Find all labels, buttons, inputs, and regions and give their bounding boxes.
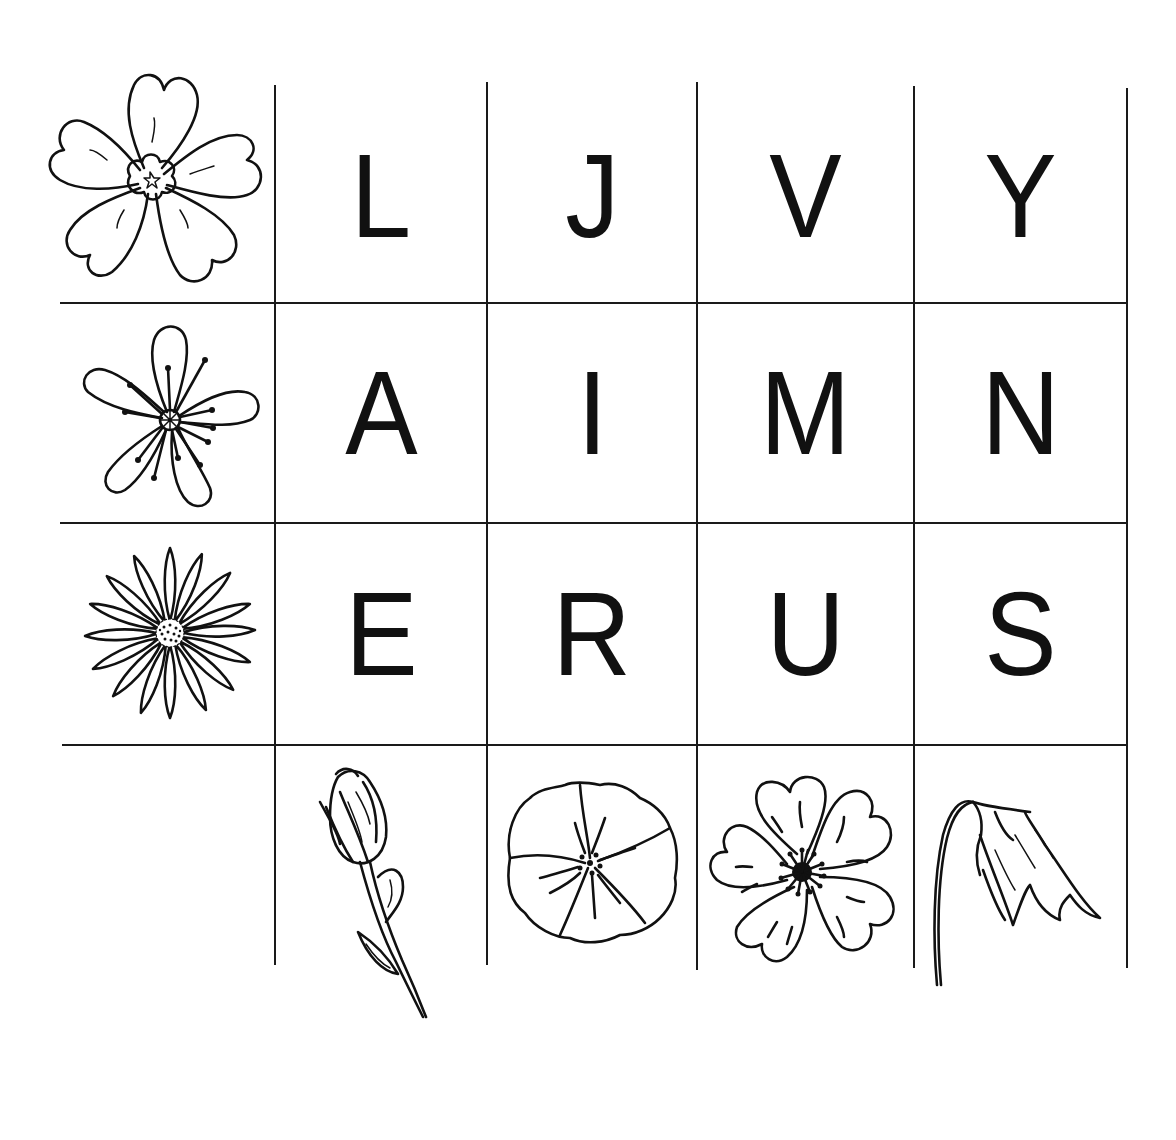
letter-cell: Y xyxy=(915,90,1126,302)
letter: A xyxy=(345,354,417,472)
letter: V xyxy=(769,137,841,255)
letter-cell: N xyxy=(915,304,1126,522)
letter: J xyxy=(565,137,619,255)
wild-rose-icon xyxy=(702,772,902,972)
morning-glory-icon xyxy=(500,778,680,948)
letter-cell: V xyxy=(698,90,913,302)
letter: U xyxy=(766,575,844,693)
letter-cell: L xyxy=(276,90,486,302)
letter: L xyxy=(351,137,411,255)
letter: E xyxy=(345,575,417,693)
five-petal-flower-icon xyxy=(75,322,265,507)
grid-line-horizontal xyxy=(62,744,1128,746)
letter-cell: S xyxy=(915,524,1126,744)
grid-line-vertical xyxy=(1126,88,1128,968)
letter: I xyxy=(577,354,607,472)
letter: Y xyxy=(984,137,1056,255)
daisy-flower-icon xyxy=(75,543,265,723)
letter: R xyxy=(553,575,631,693)
letter-cell: E xyxy=(276,524,486,744)
letter-cell: I xyxy=(488,304,696,522)
rose-bud-icon xyxy=(318,762,448,1022)
letter-cell: J xyxy=(488,90,696,302)
letter-cell: A xyxy=(276,304,486,522)
bellflower-icon xyxy=(925,790,1125,990)
letter-cell: U xyxy=(698,524,913,744)
letter: N xyxy=(981,354,1059,472)
primrose-flower-icon xyxy=(40,65,265,295)
letter-cell: R xyxy=(488,524,696,744)
letter-cell: M xyxy=(698,304,913,522)
letter: M xyxy=(760,354,850,472)
letter: S xyxy=(984,575,1056,693)
